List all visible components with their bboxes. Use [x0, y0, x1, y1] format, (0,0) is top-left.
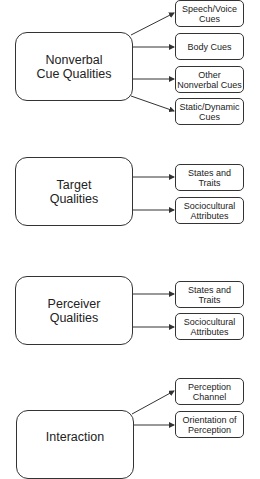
node-label: Perception Channel	[188, 382, 231, 402]
target-qualities-node: Target Qualities	[15, 157, 133, 226]
node-label: Sociocultural Attributes	[184, 201, 236, 221]
nonverbal-cue-qualities-node: Nonverbal Cue Qualities	[15, 32, 133, 101]
node-label: Other Nonverbal Cues	[177, 70, 242, 90]
other-nonverbal-cues-node: Other Nonverbal Cues	[175, 66, 244, 93]
target-sociocultural-attributes-node: Sociocultural Attributes	[175, 197, 244, 224]
node-label: Sociocultural Attributes	[184, 317, 236, 337]
node-label: States and Traits	[188, 285, 231, 305]
speech-voice-cues-node: Speech/Voice Cues	[175, 0, 244, 27]
node-label: Interaction	[46, 430, 104, 444]
perceiver-qualities-node: Perceiver Qualities	[15, 276, 133, 345]
target-states-traits-node: States and Traits	[175, 164, 244, 191]
perception-channel-node: Perception Channel	[175, 378, 244, 405]
node-label: States and Traits	[188, 168, 231, 188]
node-label: Orientation of Perception	[182, 415, 236, 435]
node-label: Static/Dynamic Cues	[179, 102, 239, 122]
node-label: Speech/Voice Cues	[182, 4, 237, 24]
node-label: Nonverbal Cue Qualities	[36, 53, 111, 81]
node-label: Body Cues	[187, 42, 231, 52]
interaction-node: Interaction	[16, 410, 134, 479]
body-cues-node: Body Cues	[175, 33, 244, 60]
node-label: Target Qualities	[50, 178, 99, 206]
perceiver-states-traits-node: States and Traits	[175, 281, 244, 308]
static-dynamic-cues-node: Static/Dynamic Cues	[175, 98, 244, 125]
orientation-of-perception-node: Orientation of Perception	[175, 411, 244, 438]
perceiver-sociocultural-attributes-node: Sociocultural Attributes	[175, 313, 244, 340]
node-label: Perceiver Qualities	[48, 297, 101, 325]
